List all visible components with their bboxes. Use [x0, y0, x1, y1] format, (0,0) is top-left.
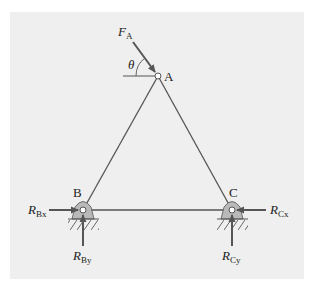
label-rby: RBy [72, 248, 92, 265]
truss-members [83, 76, 232, 210]
label-theta: θ [128, 57, 135, 72]
joint-a-pin [155, 73, 161, 79]
force-fa-arrow [133, 42, 155, 72]
label-node-a: A [164, 69, 174, 84]
label-fa: FA [117, 24, 133, 41]
label-node-b: B [73, 185, 82, 200]
label-rbx: RBx [27, 202, 47, 219]
label-node-c: C [229, 185, 238, 200]
member-ab [83, 76, 158, 210]
member-ac [158, 76, 232, 210]
truss-diagram: θ FA A B C RBx RBy RCx RCy [0, 0, 320, 291]
label-rcy: RCy [221, 248, 241, 265]
theta-arc [136, 58, 145, 76]
joint-c-pin [229, 207, 235, 213]
joint-b-pin [80, 207, 86, 213]
label-rcx: RCx [269, 202, 289, 219]
